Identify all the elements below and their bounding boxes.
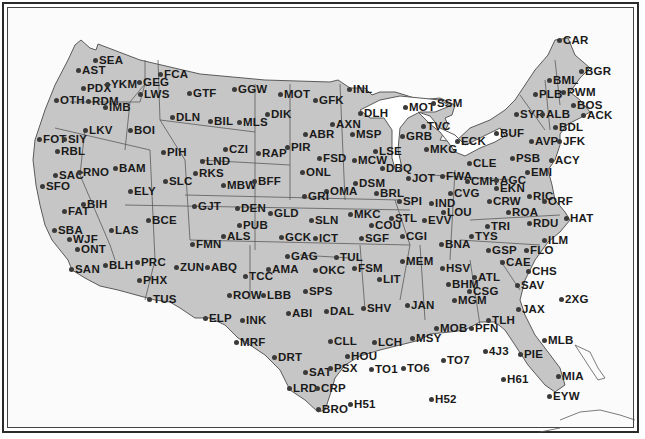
station-label: BFF: [258, 175, 281, 187]
station-cle: CLE: [467, 157, 497, 169]
station-label: AST: [82, 64, 106, 76]
station-label: TO1: [375, 363, 398, 375]
station-dot-icon: [467, 161, 472, 166]
station-dot-icon: [261, 293, 266, 298]
station-dot-icon: [67, 237, 72, 242]
station-label: SSM: [437, 97, 463, 109]
station-to6: TO6: [401, 362, 430, 374]
station-dot-icon: [53, 173, 58, 178]
station-label: FCA: [164, 68, 188, 80]
station-label: GGW: [238, 83, 267, 95]
station-dot-icon: [448, 191, 453, 196]
station-label: PIE: [524, 348, 543, 360]
station-label: EYW: [553, 390, 580, 402]
station-label: GLD: [274, 207, 299, 219]
station-label: CHS: [532, 265, 557, 277]
station-hat: HAT: [564, 212, 593, 224]
station-dot-icon: [252, 179, 257, 184]
station-msy: MSY: [410, 332, 442, 344]
station-dot-icon: [455, 139, 460, 144]
station-label: RNO: [83, 166, 109, 178]
station-onl: ONL: [300, 166, 331, 178]
station-eck: ECK: [455, 135, 486, 147]
station-flo: FLO: [524, 244, 554, 256]
station-label: PSB: [516, 152, 540, 164]
station-label: OMA: [330, 185, 357, 197]
station-acy: ACY: [549, 154, 580, 166]
station-dot-icon: [205, 265, 210, 270]
station-dot-icon: [279, 235, 284, 240]
station-dot-icon: [348, 212, 353, 217]
station-mot: MOT: [278, 88, 310, 100]
station-dot-icon: [542, 238, 547, 243]
station-jot: JOT: [406, 172, 435, 184]
station-dot-icon: [81, 86, 86, 91]
station-label: GRB: [406, 130, 432, 142]
station-prc: PRC: [135, 256, 166, 268]
station-den: DEN: [235, 202, 266, 214]
station-bna: BNA: [439, 238, 471, 250]
station-dot-icon: [200, 159, 205, 164]
station-dot-icon: [359, 236, 364, 241]
station-bff: BFF: [252, 175, 281, 187]
station-label: DAL: [330, 305, 354, 317]
station-label: BRO: [322, 403, 348, 415]
station-label: BAM: [119, 162, 146, 174]
station-zun: ZUN: [174, 261, 204, 273]
station-label: EVV: [428, 214, 452, 226]
station-jfk: JFK: [557, 135, 585, 147]
station-dot-icon: [330, 122, 335, 127]
station-dot-icon: [557, 139, 562, 144]
station-dot-icon: [421, 124, 426, 129]
station-dot-icon: [103, 263, 108, 268]
station-label: PRC: [141, 256, 166, 268]
station-label: LBB: [267, 289, 291, 301]
station-label: ROW: [233, 289, 262, 301]
station-gfk: GFK: [313, 94, 344, 106]
station-ekn: EKN: [494, 182, 525, 194]
station-car: CAR: [557, 34, 589, 46]
station-label: COU: [375, 219, 401, 231]
station-dot-icon: [243, 274, 248, 279]
station-label: CAR: [563, 34, 589, 46]
station-dot-icon: [533, 92, 538, 97]
station-label: ACY: [555, 154, 580, 166]
station-label: MKC: [354, 208, 381, 220]
station-label: BGR: [585, 65, 611, 77]
station-dot-icon: [158, 72, 163, 77]
station-dot-icon: [556, 374, 561, 379]
station-dot-icon: [128, 128, 133, 133]
station-dot-icon: [103, 105, 108, 110]
station-dot-icon: [105, 82, 110, 87]
station-dot-icon: [441, 358, 446, 363]
station-label: TO6: [407, 362, 430, 374]
station-dot-icon: [401, 366, 406, 371]
station-label: FMN: [196, 238, 222, 250]
station-label: ONT: [81, 243, 106, 255]
station-label: SFO: [46, 180, 70, 192]
station-dot-icon: [37, 137, 42, 142]
station-inl: INL: [347, 83, 372, 95]
station-label: GCK: [285, 231, 311, 243]
station-hou: HOU: [345, 350, 377, 362]
station-label: DEN: [241, 202, 266, 214]
station-gld: GLD: [268, 207, 299, 219]
station-ack: ACK: [581, 109, 613, 121]
station-label: FLO: [530, 244, 554, 256]
station-dot-icon: [501, 377, 506, 382]
station-dot-icon: [542, 199, 547, 204]
station-dln: DLN: [170, 111, 200, 123]
station-label: SAN: [75, 263, 100, 275]
station-dot-icon: [256, 151, 261, 156]
station-lnd: LND: [200, 155, 230, 167]
station-fat: FAT: [62, 205, 89, 217]
station-dot-icon: [300, 170, 305, 175]
station-label: BML: [553, 74, 579, 86]
station-rno: RNO: [77, 166, 109, 178]
station-emi: EMI: [525, 166, 552, 178]
station-label: ZUN: [180, 261, 204, 273]
station-dot-icon: [76, 68, 81, 73]
station-label: MOB: [440, 322, 467, 334]
station-cou: COU: [369, 219, 401, 231]
station-label: EKN: [500, 182, 525, 194]
